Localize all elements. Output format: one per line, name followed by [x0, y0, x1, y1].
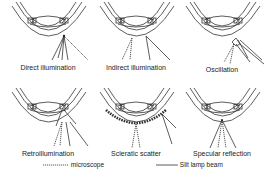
panel-label: Indirect illumination — [92, 64, 180, 72]
dotted-line-icon — [43, 163, 69, 167]
legend-label: microscope — [71, 161, 104, 168]
panel-indirect-illumination: Indirect illumination — [92, 0, 180, 88]
panel-oscillation: Oscillation — [178, 0, 266, 88]
eye-diagram-icon — [92, 0, 180, 88]
solid-line-icon — [156, 163, 178, 167]
legend-slit-lamp: Slit lamp beam — [156, 161, 223, 169]
eye-diagram-icon — [4, 0, 92, 88]
panel-label: Oscillation — [178, 66, 266, 74]
legend-microscope: microscope — [43, 161, 104, 169]
panel-label: Direct illumination — [4, 64, 92, 72]
legend-label: Slit lamp beam — [180, 161, 223, 168]
panel-direct-illumination: Direct illumination — [4, 0, 92, 88]
panel-label: Retroillumination — [4, 150, 92, 158]
eye-diagram-icon — [178, 0, 266, 88]
panel-label: Scleratic scatter — [92, 150, 180, 158]
panel-label: Specular reflection — [178, 150, 266, 158]
